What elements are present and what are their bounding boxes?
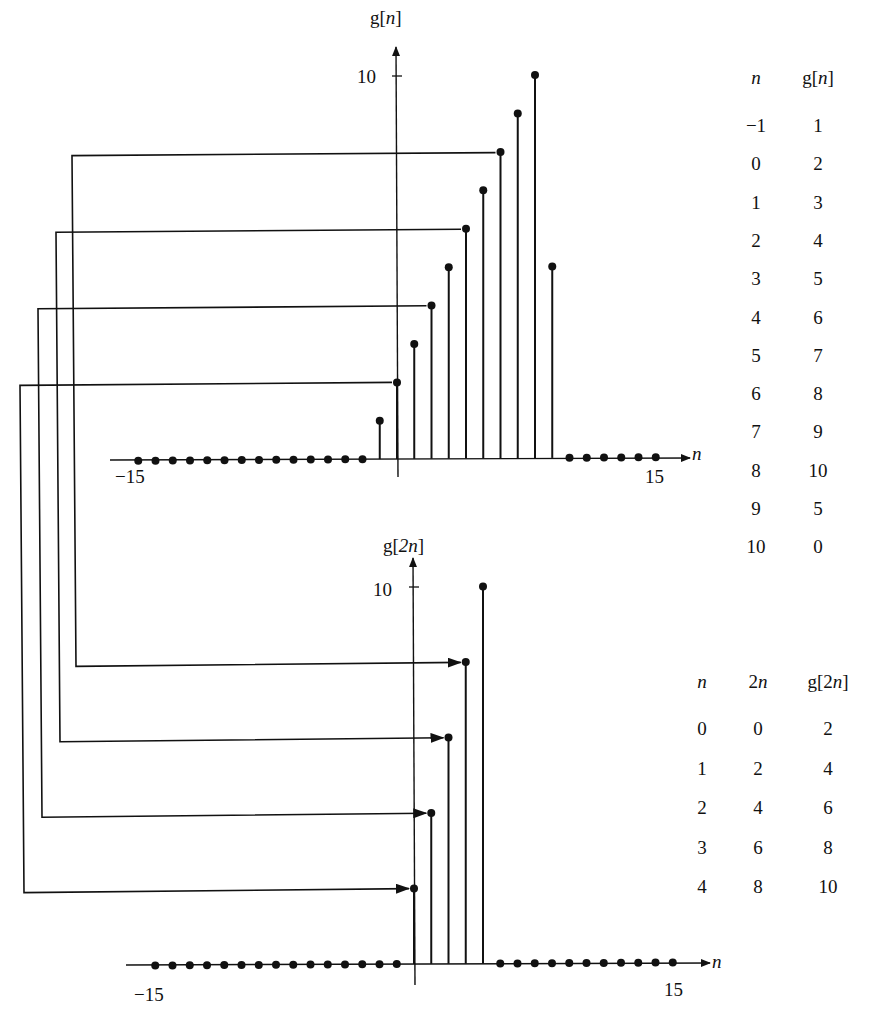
stem-marker: [203, 961, 211, 969]
table-cell: 4: [796, 231, 840, 250]
stem-marker: [220, 961, 228, 969]
table-header: g[2n]: [806, 672, 850, 691]
table-cell: 10: [806, 877, 850, 896]
table-cell: 0: [680, 719, 724, 738]
table-cell: 1: [796, 116, 840, 135]
top-ylabel: g[n]: [370, 8, 402, 27]
stem-marker: [393, 960, 401, 968]
stem-marker: [617, 959, 625, 967]
stem-marker: [514, 109, 522, 117]
stem-marker: [238, 456, 246, 464]
table-cell: 9: [796, 422, 840, 441]
stem-marker: [669, 959, 677, 967]
stem-marker: [497, 148, 505, 156]
table-cell: 2: [734, 231, 778, 250]
stem-marker: [565, 959, 573, 967]
stem-marker: [652, 453, 660, 461]
bottom-ytick-10: 10: [373, 580, 392, 599]
stem-marker: [462, 658, 470, 666]
table-cell: 2: [736, 759, 780, 778]
bottom-xmax-label: 15: [664, 980, 683, 999]
stem-marker: [358, 960, 366, 968]
stem-marker: [203, 456, 211, 464]
table-cell: 10: [734, 537, 778, 556]
table-header: n: [734, 68, 778, 87]
stem-marker: [186, 961, 194, 969]
table-cell: 1: [734, 193, 778, 212]
stem-marker: [324, 961, 332, 969]
stem-marker: [359, 455, 367, 463]
stem-marker: [272, 456, 280, 464]
table-header: 2n: [736, 672, 780, 691]
table-cell: 0: [796, 537, 840, 556]
stem-marker: [376, 417, 384, 425]
stem-marker: [600, 454, 608, 462]
stem-marker: [134, 457, 142, 465]
stem-marker: [496, 960, 504, 968]
table-cell: 0: [736, 719, 780, 738]
bottom-stem-plot: [126, 558, 710, 985]
stem-marker: [307, 961, 315, 969]
table-cell: 6: [796, 308, 840, 327]
stem-marker: [290, 456, 298, 464]
stem-marker: [531, 71, 539, 79]
stem-marker: [548, 959, 556, 967]
stem-marker: [427, 809, 435, 817]
stem-marker: [479, 583, 487, 591]
table-header: g[n]: [796, 68, 840, 87]
stem-marker: [238, 961, 246, 969]
stem-marker: [393, 378, 401, 386]
stem-marker: [221, 456, 229, 464]
table-cell: 2: [796, 154, 840, 173]
stem-marker: [445, 734, 453, 742]
table-cell: 6: [806, 798, 850, 817]
stem-marker: [566, 454, 574, 462]
top-xmin-label: −15: [115, 467, 145, 486]
stem-marker: [152, 457, 160, 465]
stem-marker: [548, 262, 556, 270]
stem-marker: [514, 959, 522, 967]
table-cell: 5: [796, 499, 840, 518]
table-cell: 7: [796, 346, 840, 365]
stem-marker: [169, 457, 177, 465]
stem-marker: [376, 960, 384, 968]
stem-marker: [255, 961, 263, 969]
table-cell: 2: [680, 798, 724, 817]
table-cell: 6: [734, 384, 778, 403]
table-cell: 2: [806, 719, 850, 738]
stem-marker: [151, 962, 159, 970]
table-cell: 9: [734, 499, 778, 518]
stem-marker: [169, 961, 177, 969]
stem-marker: [272, 961, 280, 969]
table-cell: 4: [734, 308, 778, 327]
bottom-xaxis-label: n: [712, 952, 722, 971]
table-cell: 0: [734, 154, 778, 173]
stem-marker: [341, 455, 349, 463]
bottom-ylabel: g[2n]: [383, 536, 424, 555]
table-cell: 8: [736, 877, 780, 896]
table-header: n: [680, 672, 724, 691]
stem-marker: [531, 959, 539, 967]
stem-marker: [410, 340, 418, 348]
stem-marker: [652, 959, 660, 967]
stem-marker: [255, 456, 263, 464]
stem-marker: [410, 885, 418, 893]
bottom-xmin-label: −15: [134, 985, 164, 1004]
table-cell: 4: [806, 759, 850, 778]
stem-marker: [634, 959, 642, 967]
top-stem-plot: [110, 47, 690, 477]
stem-marker: [583, 959, 591, 967]
stem-marker: [445, 263, 453, 271]
stem-marker: [428, 302, 436, 310]
table-cell: 4: [736, 798, 780, 817]
table-cell: 6: [736, 838, 780, 857]
table-cell: 1: [680, 759, 724, 778]
stem-marker: [583, 454, 591, 462]
stem-marker: [186, 456, 194, 464]
stem-marker: [462, 225, 470, 233]
stem-marker: [479, 186, 487, 194]
stem-marker: [289, 961, 297, 969]
mapping-arrows: [20, 153, 496, 893]
table-cell: −1: [734, 116, 778, 135]
table-cell: 7: [734, 422, 778, 441]
